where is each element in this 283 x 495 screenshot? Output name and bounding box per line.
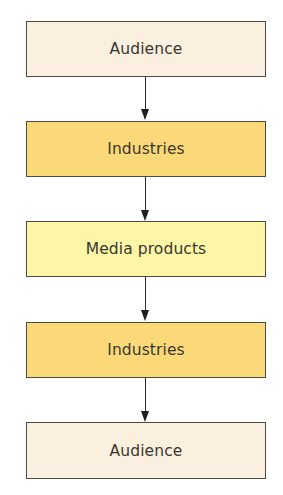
node-industries-lower: Industries [26, 322, 266, 378]
arrow-down-icon [145, 177, 147, 221]
node-audience-bottom: Audience [26, 422, 266, 479]
arrow-down-icon [145, 77, 147, 121]
node-label: Media products [86, 240, 207, 258]
arrow-down-icon [145, 378, 147, 422]
node-label: Industries [107, 140, 185, 158]
node-label: Audience [110, 40, 183, 58]
node-label: Audience [110, 442, 183, 460]
arrow-down-icon [145, 277, 147, 322]
node-media-products: Media products [26, 221, 266, 277]
node-label: Industries [107, 341, 185, 359]
node-audience-top: Audience [26, 21, 266, 77]
node-industries-upper: Industries [26, 121, 266, 177]
